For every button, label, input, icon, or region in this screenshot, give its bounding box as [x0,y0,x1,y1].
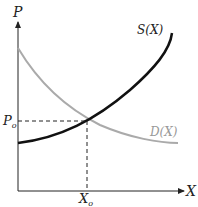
diagram-canvas: P X S(X) D(X) Po Xo [0,0,198,207]
supply-demand-diagram: P X S(X) D(X) Po Xo [0,0,198,207]
x-axis-label: X [185,183,197,199]
supply-label: S(X) [137,23,163,37]
demand-label: D(X) [149,125,178,139]
supply-curve [18,33,172,143]
y-axis-label: P [12,4,23,20]
equilibrium-quantity-label: Xo [78,191,93,207]
equilibrium-price-label: Po [2,113,17,130]
